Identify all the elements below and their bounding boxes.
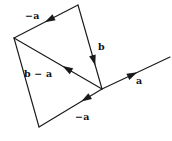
label-a-text: a [136,75,142,86]
label-b-text: b [98,41,105,52]
edge-minus-a-top [14,5,78,38]
edge-minus-a-bottom-line [39,89,102,127]
edge-b-minus-a-line [14,38,102,89]
label-minus-a-bottom: −a [75,112,90,122]
edge-minus-a-bottom [39,89,102,127]
label-b: b [98,42,105,52]
edge-left-side-line [14,38,39,127]
edge-b-minus-a [14,38,102,89]
label-minus-a-top-text: −a [25,10,40,21]
label-a: a [136,76,142,86]
edge-b-minus-a-arrowhead [62,66,73,74]
label-minus-a-top: −a [25,11,40,21]
vector-diagram: −a b b − a −a a [0,0,172,141]
label-b-minus-a: b − a [24,69,52,79]
edge-minus-a-bottom-arrowhead [81,93,92,101]
edge-left-side [14,38,39,127]
label-b-minus-a-text: b − a [24,68,52,79]
edge-minus-a-top-arrowhead [45,14,56,22]
label-minus-a-bottom-text: −a [75,111,90,122]
edge-b-arrowhead [89,54,96,65]
